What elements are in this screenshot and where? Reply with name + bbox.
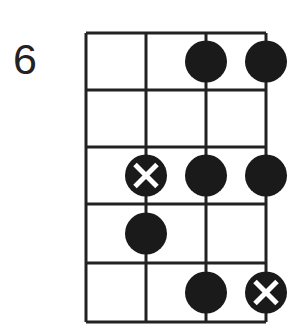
note-dot xyxy=(125,213,167,255)
note-dot xyxy=(185,41,227,83)
note-dot xyxy=(185,272,227,314)
note-dot xyxy=(245,155,287,197)
note-dot xyxy=(245,41,287,83)
note-dot xyxy=(185,155,227,197)
fretboard-diagram xyxy=(0,0,307,336)
